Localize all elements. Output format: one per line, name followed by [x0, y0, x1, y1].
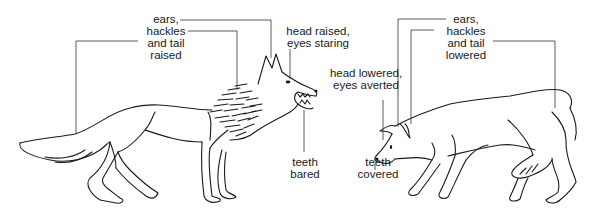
- label-submissive-ears-hackles-tail: ears, hackles and tail lowered: [438, 13, 494, 61]
- label-teeth-bared: teeth bared: [287, 156, 323, 180]
- label-teeth-covered: teeth covered: [356, 156, 400, 180]
- label-line: teeth: [287, 156, 323, 168]
- label-line: eyes averted: [326, 79, 406, 91]
- submissive-wolf-illustration: [375, 89, 576, 203]
- dominant-leader-lines: [76, 20, 304, 152]
- label-line: hackles: [438, 25, 494, 37]
- label-line: hackles: [143, 25, 189, 37]
- label-line: raised: [143, 49, 189, 61]
- label-line: teeth: [356, 156, 400, 168]
- label-line: ears,: [143, 13, 189, 25]
- label-head-lowered-eyes-averted: head lowered, eyes averted: [326, 67, 406, 91]
- label-head-raised-eyes-staring: head raised, eyes staring: [282, 25, 354, 49]
- label-line: head raised,: [282, 25, 354, 37]
- hackles-fur: [210, 84, 262, 136]
- label-line: covered: [356, 168, 400, 180]
- label-line: lowered: [438, 49, 494, 61]
- dominant-wolf-illustration: [20, 54, 318, 203]
- label-line: eyes staring: [282, 37, 354, 49]
- label-line: bared: [287, 168, 323, 180]
- label-line: and tail: [143, 37, 189, 49]
- label-dominant-ears-hackles-tail: ears, hackles and tail raised: [143, 13, 189, 61]
- label-line: and tail: [438, 37, 494, 49]
- wolf-posture-diagram: ears, hackles and tail raised head raise…: [0, 0, 596, 213]
- label-line: head lowered,: [326, 67, 406, 79]
- label-line: ears,: [438, 13, 494, 25]
